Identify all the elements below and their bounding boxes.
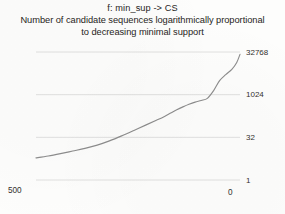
y-axis-tick-label: 1 bbox=[246, 176, 250, 185]
y-axis-tick-1: 1024 bbox=[246, 90, 264, 99]
y-axis-tick-label: 32 bbox=[246, 133, 255, 142]
y-axis-tick-label: 32768 bbox=[246, 48, 268, 57]
y-axis-tick-0: 32768 bbox=[246, 48, 268, 57]
x-axis-tick-end: 0 bbox=[228, 188, 233, 197]
chart-container: f: min_sup -> CS Number of candidate seq… bbox=[0, 0, 285, 214]
y-axis-tick-3: 1 bbox=[246, 176, 250, 185]
y-axis-tick-label: 1024 bbox=[246, 90, 264, 99]
y-axis-tick-2: 32 bbox=[246, 133, 255, 142]
gridlines bbox=[36, 52, 240, 180]
x-axis-tick-start: 500 bbox=[8, 186, 22, 195]
data-series-line bbox=[36, 54, 240, 158]
plot-svg bbox=[0, 0, 285, 214]
plot-area: 32768 1024 32 1 500 0 bbox=[0, 0, 285, 214]
